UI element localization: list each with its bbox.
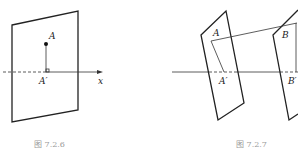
figure-7-2-6: A A′ x 图 7.2.6 [3,11,103,149]
label-x: x [98,76,103,86]
point-a-dot [44,42,48,46]
plane-b [273,10,298,120]
right-angle-marker [46,69,49,72]
line-a-to-a-prime [211,41,224,72]
axis-arrow-icon [97,70,103,74]
plane [12,11,78,122]
caption: 图 7.2.6 [34,140,65,149]
plane-a [201,11,244,120]
label-b-prime: B′ [287,76,297,86]
label-a: A [48,31,56,41]
label-a: A [212,28,220,38]
diagram-canvas: A A′ x 图 7.2.6 A A′ B B′ 图 7.2.7 [0,0,298,152]
label-b: B [281,30,289,40]
label-a-prime: A′ [38,76,48,86]
label-a-prime: A′ [218,76,228,86]
figure-7-2-7: A A′ B B′ 图 7.2.7 [172,10,298,149]
caption: 图 7.2.7 [236,140,267,149]
